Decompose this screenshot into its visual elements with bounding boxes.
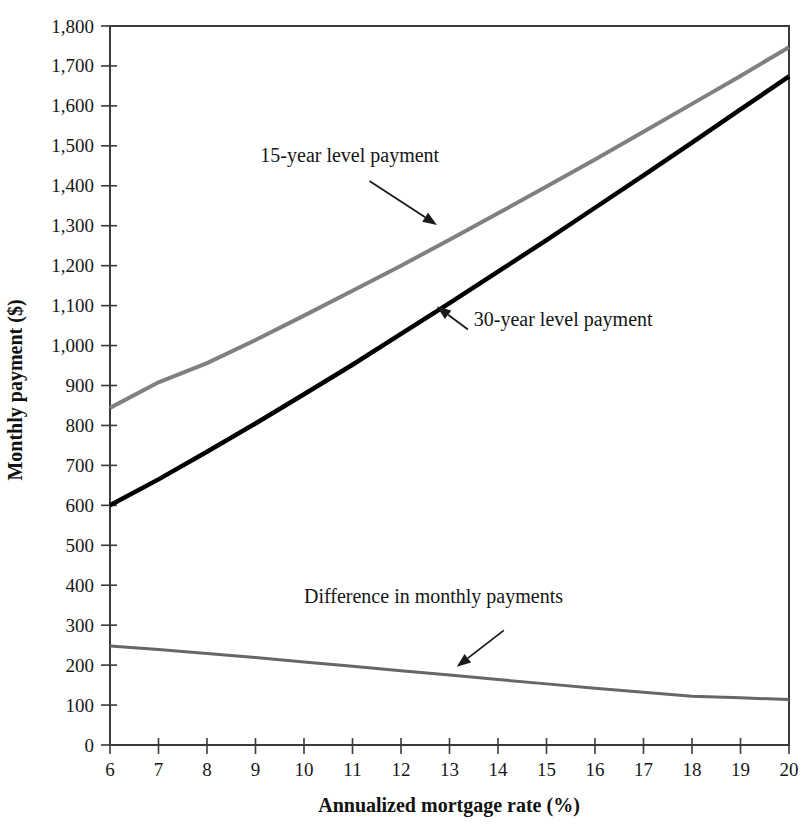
x-tick-label: 20 — [780, 759, 799, 780]
x-tick-label: 15 — [537, 759, 556, 780]
series-annotation-label: Difference in monthly payments — [304, 585, 563, 608]
y-tick-label: 500 — [66, 535, 95, 556]
y-tick-label: 1,300 — [51, 215, 94, 236]
x-tick-label: 12 — [392, 759, 411, 780]
x-tick-label: 19 — [731, 759, 750, 780]
y-tick-label: 1,200 — [51, 255, 94, 276]
x-tick-label: 9 — [251, 759, 261, 780]
x-tick-label: 18 — [683, 759, 702, 780]
series-annotation-label: 30-year level payment — [474, 308, 653, 331]
x-tick-label: 13 — [440, 759, 459, 780]
y-tick-label: 1,800 — [51, 16, 94, 37]
x-tick-label: 11 — [343, 759, 361, 780]
x-axis-labels: 67891011121314151617181920 — [105, 759, 798, 780]
y-tick-label: 800 — [66, 415, 95, 436]
y-tick-label: 1,100 — [51, 295, 94, 316]
series-annotation-label: 15-year level payment — [260, 144, 439, 167]
y-tick-label: 1,400 — [51, 175, 94, 196]
x-tick-label: 6 — [105, 759, 115, 780]
line-chart: 01002003004005006007008009001,0001,1001,… — [0, 0, 810, 837]
x-tick-label: 10 — [295, 759, 314, 780]
y-tick-label: 300 — [66, 615, 95, 636]
chart-background — [0, 0, 810, 837]
y-tick-label: 200 — [66, 655, 95, 676]
x-tick-label: 17 — [634, 759, 653, 780]
y-tick-label: 0 — [85, 735, 95, 756]
y-tick-label: 1,700 — [51, 55, 94, 76]
y-tick-label: 1,000 — [51, 335, 94, 356]
x-axis-title: Annualized mortgage rate (%) — [318, 794, 580, 817]
x-tick-label: 14 — [489, 759, 509, 780]
y-tick-label: 1,500 — [51, 135, 94, 156]
y-tick-label: 1,600 — [51, 95, 94, 116]
x-tick-label: 7 — [154, 759, 164, 780]
y-tick-label: 900 — [66, 375, 95, 396]
y-axis-title: Monthly payment ($) — [4, 299, 27, 480]
y-tick-label: 600 — [66, 495, 95, 516]
x-tick-label: 16 — [586, 759, 605, 780]
y-tick-label: 100 — [66, 695, 95, 716]
y-tick-label: 400 — [66, 575, 95, 596]
chart-figure: 01002003004005006007008009001,0001,1001,… — [0, 0, 810, 837]
y-tick-label: 700 — [66, 455, 95, 476]
x-tick-label: 8 — [202, 759, 212, 780]
